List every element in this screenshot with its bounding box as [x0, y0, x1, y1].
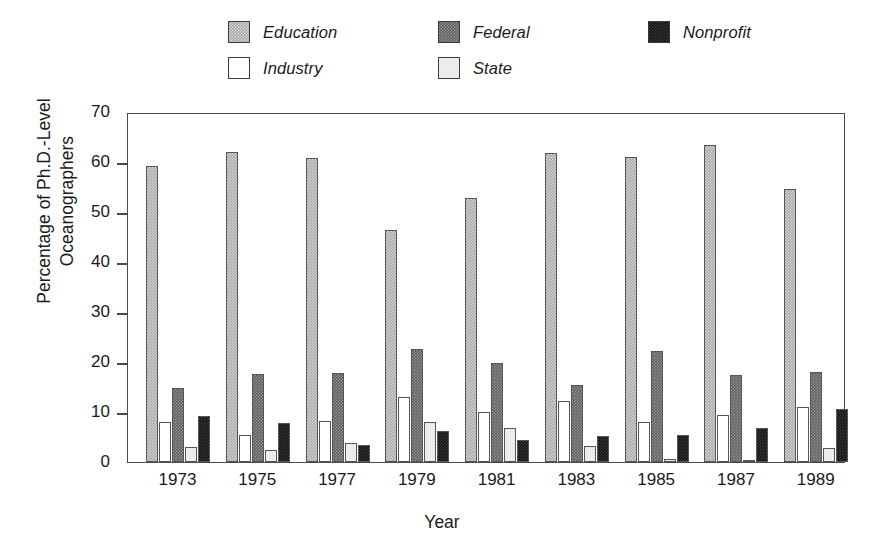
legend-label-state: State [473, 59, 512, 78]
bar-industry-1977[interactable] [319, 421, 331, 463]
y-tick-label: 10 [91, 402, 110, 422]
bar-education-1973[interactable] [146, 166, 158, 463]
y-tick-mark [117, 163, 127, 165]
bar-nonprofit-1981[interactable] [517, 440, 529, 462]
legend-entry-industry[interactable]: Industry [228, 57, 438, 79]
x-tick-label-1985: 1985 [637, 470, 675, 490]
bar-state-1989[interactable] [823, 448, 835, 462]
bar-group-1975 [226, 114, 291, 462]
chart-legend: EducationFederalNonprofitIndustryState [228, 14, 788, 86]
legend-label-federal: Federal [473, 23, 530, 42]
bar-group-1977 [306, 114, 371, 462]
bar-industry-1973[interactable] [159, 422, 171, 462]
legend-label-nonprofit: Nonprofit [683, 23, 751, 42]
bar-education-1987[interactable] [704, 145, 716, 463]
bar-nonprofit-1977[interactable] [358, 445, 370, 462]
bar-group-1985 [625, 114, 690, 462]
bar-industry-1983[interactable] [558, 401, 570, 463]
legend-entry-federal[interactable]: Federal [438, 21, 648, 43]
x-axis: 197319751977197919811983198519871989 [127, 470, 845, 496]
bar-industry-1981[interactable] [478, 412, 490, 462]
bar-industry-1979[interactable] [398, 397, 410, 462]
bar-federal-1981[interactable] [491, 363, 503, 463]
bar-federal-1987[interactable] [730, 375, 742, 462]
bar-nonprofit-1973[interactable] [198, 416, 210, 463]
bar-group-1981 [465, 114, 530, 462]
x-tick-label-1977: 1977 [318, 470, 356, 490]
bar-state-1987[interactable] [743, 460, 755, 462]
bar-education-1985[interactable] [625, 157, 637, 462]
bar-education-1983[interactable] [545, 153, 557, 462]
bar-federal-1979[interactable] [411, 349, 423, 462]
x-tick-label-1987: 1987 [717, 470, 755, 490]
y-axis: 010203040506070 [0, 113, 127, 463]
y-tick-label: 70 [91, 102, 110, 122]
bar-chart-figure: EducationFederalNonprofitIndustryState P… [0, 0, 884, 554]
legend-swatch-nonprofit [648, 21, 670, 43]
bar-nonprofit-1987[interactable] [756, 428, 768, 462]
bar-education-1981[interactable] [465, 198, 477, 462]
x-tick-label-1979: 1979 [398, 470, 436, 490]
y-tick-label: 40 [91, 252, 110, 272]
bar-nonprofit-1979[interactable] [437, 431, 449, 463]
legend-swatch-education [228, 21, 250, 43]
bar-federal-1973[interactable] [172, 388, 184, 463]
bar-state-1977[interactable] [345, 443, 357, 463]
bar-industry-1985[interactable] [638, 422, 650, 462]
legend-entry-education[interactable]: Education [228, 21, 438, 43]
y-tick-mark [117, 313, 127, 315]
bar-federal-1989[interactable] [810, 372, 822, 462]
bar-nonprofit-1985[interactable] [677, 435, 689, 462]
bar-state-1973[interactable] [185, 447, 197, 462]
bar-nonprofit-1989[interactable] [836, 409, 848, 462]
bar-group-1979 [385, 114, 450, 462]
bar-state-1981[interactable] [504, 428, 516, 462]
bar-state-1979[interactable] [424, 422, 436, 462]
legend-entry-state[interactable]: State [438, 57, 648, 79]
legend-swatch-federal [438, 21, 460, 43]
plot-area [127, 113, 845, 463]
bar-state-1983[interactable] [584, 446, 596, 462]
bar-nonprofit-1975[interactable] [278, 423, 290, 462]
bar-industry-1975[interactable] [239, 435, 251, 463]
bar-education-1977[interactable] [306, 158, 318, 462]
y-tick-label: 30 [91, 302, 110, 322]
bar-group-1989 [784, 114, 849, 462]
y-tick-mark [117, 413, 127, 415]
bar-federal-1983[interactable] [571, 385, 583, 462]
legend-label-education: Education [263, 23, 337, 42]
x-tick-label-1973: 1973 [159, 470, 197, 490]
y-tick-label: 50 [91, 202, 110, 222]
legend-swatch-industry [228, 57, 250, 79]
x-tick-label-1975: 1975 [238, 470, 276, 490]
bar-group-1983 [545, 114, 610, 462]
bar-state-1975[interactable] [265, 450, 277, 463]
legend-entry-nonprofit[interactable]: Nonprofit [648, 21, 788, 43]
y-tick-label: 0 [101, 452, 110, 472]
bar-nonprofit-1983[interactable] [597, 436, 609, 462]
bar-group-1973 [146, 114, 211, 462]
x-tick-label-1983: 1983 [557, 470, 595, 490]
y-tick-mark [117, 213, 127, 215]
bar-federal-1985[interactable] [651, 351, 663, 462]
y-tick-mark [117, 363, 127, 365]
bar-industry-1989[interactable] [797, 407, 809, 462]
legend-swatch-state [438, 57, 460, 79]
bar-group-1987 [704, 114, 769, 462]
x-tick-label-1989: 1989 [797, 470, 835, 490]
y-tick-mark [117, 263, 127, 265]
bars-layer [128, 114, 844, 462]
bar-education-1989[interactable] [784, 189, 796, 463]
x-tick-label-1981: 1981 [478, 470, 516, 490]
bar-federal-1975[interactable] [252, 374, 264, 463]
bar-federal-1977[interactable] [332, 373, 344, 463]
y-tick-label: 20 [91, 352, 110, 372]
legend-label-industry: Industry [263, 59, 323, 78]
bar-industry-1987[interactable] [717, 415, 729, 462]
bar-education-1975[interactable] [226, 152, 238, 462]
bar-state-1985[interactable] [664, 459, 676, 463]
bar-education-1979[interactable] [385, 230, 397, 463]
y-tick-label: 60 [91, 152, 110, 172]
x-axis-title: Year [0, 512, 884, 533]
